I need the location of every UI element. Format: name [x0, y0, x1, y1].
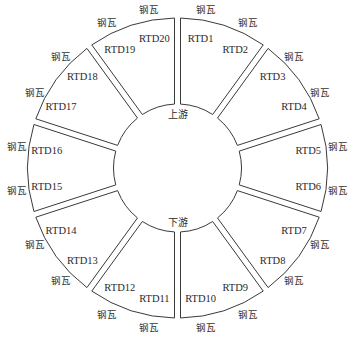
sensor-label: RTD12 — [104, 282, 135, 293]
pad-label: 钢瓦 — [97, 309, 117, 320]
sensor-label: RTD16 — [31, 145, 62, 156]
pad-segment-4 — [218, 191, 320, 288]
pad-label: 钢瓦 — [284, 51, 304, 62]
downstream-label: 下游 — [168, 216, 188, 228]
pad-label: 钢瓦 — [284, 275, 304, 286]
bearing-pad-diagram: RTD1钢瓦RTD2钢瓦RTD3钢瓦RTD4钢瓦RTD5钢瓦RTD6钢瓦RTD7… — [0, 0, 349, 343]
sensor-label: RTD20 — [139, 33, 170, 44]
pad-label: 钢瓦 — [328, 141, 348, 152]
pad-label: 钢瓦 — [139, 4, 159, 15]
sensor-label: RTD10 — [185, 293, 216, 304]
sensor-label: RTD6 — [295, 181, 321, 192]
sensor-label: RTD2 — [222, 44, 248, 55]
pad-label: 钢瓦 — [51, 275, 71, 286]
sensor-label: RTD7 — [281, 225, 307, 236]
pad-label: 钢瓦 — [238, 309, 258, 320]
pad-segments — [28, 18, 328, 318]
sensor-label: RTD15 — [31, 181, 62, 192]
pad-label: 钢瓦 — [7, 185, 27, 196]
pad-segment-9 — [36, 48, 138, 145]
sensor-label: RTD14 — [46, 225, 78, 236]
sensor-label: RTD5 — [295, 145, 321, 156]
pad-label: 钢瓦 — [7, 141, 27, 152]
pad-label: 钢瓦 — [139, 322, 159, 333]
sensor-label: RTD17 — [46, 101, 77, 112]
sensor-label: RTD4 — [281, 101, 307, 112]
sensor-label: RTD13 — [67, 255, 98, 266]
pad-segment-8 — [28, 125, 116, 212]
sensor-label: RTD11 — [139, 293, 169, 304]
sensor-label: RTD1 — [188, 33, 214, 44]
upstream-label: 上游 — [168, 108, 188, 120]
pad-label: 钢瓦 — [25, 87, 45, 98]
pad-label: 钢瓦 — [97, 17, 117, 28]
sensor-label: RTD18 — [67, 71, 98, 82]
pad-label: 钢瓦 — [196, 322, 216, 333]
labels: RTD1钢瓦RTD2钢瓦RTD3钢瓦RTD4钢瓦RTD5钢瓦RTD6钢瓦RTD7… — [7, 4, 348, 334]
pad-label: 钢瓦 — [328, 185, 348, 196]
pad-label: 钢瓦 — [25, 239, 45, 250]
pad-label: 钢瓦 — [51, 51, 71, 62]
pad-segment-7 — [36, 191, 138, 288]
pad-label: 钢瓦 — [196, 4, 216, 15]
sensor-label: RTD8 — [260, 255, 286, 266]
pad-label: 钢瓦 — [238, 17, 258, 28]
pad-label: 钢瓦 — [310, 239, 330, 250]
sensor-label: RTD9 — [222, 282, 248, 293]
pad-segment-3 — [239, 125, 327, 212]
sensor-label: RTD19 — [104, 44, 135, 55]
pad-segment-2 — [218, 48, 320, 145]
pad-label: 钢瓦 — [310, 87, 330, 98]
sensor-label: RTD3 — [260, 71, 286, 82]
